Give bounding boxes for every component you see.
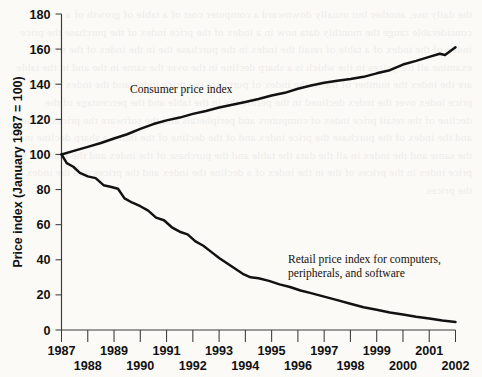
y-tick-label: 0 (43, 324, 50, 338)
x-tick-label: 2001 (415, 344, 443, 358)
chart-figure: the daily use, another but usually downw… (0, 0, 482, 377)
x-tick-label: 1990 (126, 359, 154, 373)
y-tick-label: 60 (36, 218, 50, 232)
y-tick-label: 80 (36, 183, 50, 197)
y-tick-label: 120 (29, 113, 50, 127)
series-annotation-1: Consumer price index (130, 83, 233, 96)
y-tick-label: 140 (29, 78, 50, 92)
y-tick-label: 160 (29, 43, 50, 57)
x-tick-label: 1989 (100, 344, 128, 358)
series-line-1 (62, 47, 456, 154)
x-tick-label: 1994 (231, 359, 259, 373)
series-annotation-2: Retail price index for computers,periphe… (288, 253, 441, 280)
x-tick-label: 1987 (47, 344, 75, 358)
x-tick-label: 1996 (284, 359, 312, 373)
x-tick-label: 1993 (205, 344, 233, 358)
x-tick-label: 1991 (153, 344, 181, 358)
x-tick-label: 1992 (179, 359, 207, 373)
x-tick-label: 2002 (441, 359, 469, 373)
y-tick-label: 20 (36, 288, 50, 302)
y-tick-label: 100 (29, 148, 50, 162)
axes-layer (56, 14, 456, 342)
x-tick-label: 1998 (336, 359, 364, 373)
line-chart-canvas: 0204060801001201401601801987198819891990… (0, 0, 482, 377)
series-layer (62, 47, 456, 322)
x-tick-label: 1999 (363, 344, 391, 358)
y-tick-label: 180 (29, 8, 50, 22)
y-tick-label: 40 (36, 253, 50, 267)
x-tick-label: 1997 (310, 344, 338, 358)
x-tick-label: 2000 (389, 359, 417, 373)
tick-label-layer: 0204060801001201401601801987198819891990… (11, 8, 470, 373)
x-tick-label: 1995 (258, 344, 286, 358)
y-axis-title: Price index (January 1987 = 100) (11, 76, 25, 267)
x-tick-label: 1988 (74, 359, 102, 373)
series-line-2 (62, 154, 456, 322)
